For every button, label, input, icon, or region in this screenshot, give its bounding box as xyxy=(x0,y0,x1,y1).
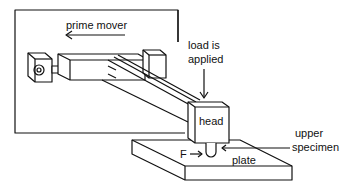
prime-mover-arrow xyxy=(66,31,125,39)
upper-specimen-pin xyxy=(206,143,216,157)
wear-tester-diagram: prime mover load is applied head upper s… xyxy=(0,0,364,194)
upper-specimen-label-line2: specimen xyxy=(292,141,339,153)
load-label-line1: load is xyxy=(188,39,220,51)
left-mount-block xyxy=(28,53,62,82)
head-label: head xyxy=(199,115,223,127)
upper-specimen-label-line1: upper xyxy=(295,127,323,139)
force-label: F xyxy=(180,148,187,160)
prime-mover-label: prime mover xyxy=(66,19,127,31)
load-arrow xyxy=(200,69,208,98)
plate-label: plate xyxy=(232,154,256,166)
load-label-line2: applied xyxy=(188,53,223,65)
right-mount-block xyxy=(143,50,166,78)
